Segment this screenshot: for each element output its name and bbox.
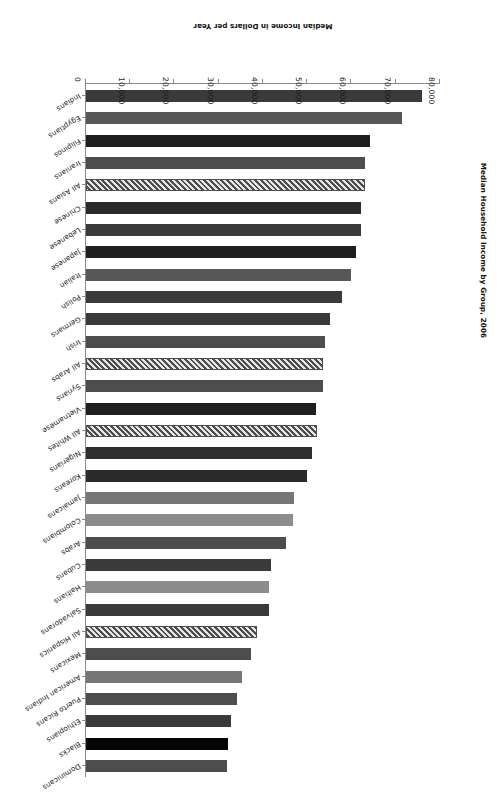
bar-row [86, 246, 440, 258]
bar-american-indians[interactable] [86, 671, 242, 683]
value-tick-label: 0 [73, 77, 82, 82]
bar-row [86, 715, 440, 727]
category-tick-mark [82, 609, 86, 610]
chart-title: Median Household Income by Group, 2006 [469, 0, 499, 797]
category-label-filipinos: Filipinos [52, 136, 82, 159]
category-tick-mark [82, 743, 86, 744]
bar-all-whites[interactable] [86, 425, 317, 437]
bar-row [86, 693, 440, 705]
bar-salvadorans[interactable] [86, 604, 269, 616]
bar-row [86, 648, 440, 660]
category-tick-mark [82, 184, 86, 185]
value-tick-label: 50,000 [294, 77, 303, 104]
value-tick-label: 30,000 [206, 77, 215, 104]
bar-italian[interactable] [86, 269, 351, 281]
bar-nigerians[interactable] [86, 447, 312, 459]
bar-row [86, 403, 440, 415]
category-tick-mark [82, 720, 86, 721]
category-label-arabs: Arabs [60, 538, 83, 557]
bar-row [86, 760, 440, 772]
value-tick-label: 40,000 [250, 77, 259, 104]
chart-figure: Median Household Income by Group, 2006 8… [0, 0, 499, 797]
value-tick-label: 80,000 [427, 77, 436, 104]
category-label-haitians: Haitians [52, 583, 82, 607]
bar-dominicans[interactable] [86, 760, 227, 772]
bar-row [86, 291, 440, 303]
bar-row [86, 470, 440, 482]
category-tick-mark [82, 251, 86, 252]
category-tick-mark [82, 95, 86, 96]
bar-row [86, 202, 440, 214]
category-tick-mark [82, 363, 86, 364]
bar-polish[interactable] [86, 291, 342, 303]
value-axis-title: Median Income in Dollars per Year [86, 22, 440, 31]
bar-haitians[interactable] [86, 581, 269, 593]
bar-chinese[interactable] [86, 202, 361, 214]
bar-row [86, 514, 440, 526]
value-tick-mark [262, 79, 263, 84]
category-tick-mark [82, 765, 86, 766]
chart-title-text: Median Household Income by Group, 2006 [480, 163, 489, 338]
category-label-polish: Polish [59, 293, 82, 312]
bar-ethiopians[interactable] [86, 715, 231, 727]
category-tick-mark [82, 430, 86, 431]
bar-all-arabs[interactable] [86, 358, 323, 370]
category-tick-mark [82, 676, 86, 677]
bar-colombians[interactable] [86, 514, 293, 526]
category-tick-mark [82, 475, 86, 476]
category-tick-mark [82, 229, 86, 230]
bar-egyptians[interactable] [86, 112, 402, 124]
bar-row [86, 738, 440, 750]
bar-all-asians[interactable] [86, 179, 365, 191]
category-tick-mark [82, 653, 86, 654]
bar-vietnamese[interactable] [86, 403, 316, 415]
bar-iranians[interactable] [86, 157, 365, 169]
bar-row [86, 604, 440, 616]
category-label-indians: Indians [55, 92, 82, 114]
bar-germans[interactable] [86, 313, 330, 325]
bar-puerto-ricans[interactable] [86, 693, 237, 705]
bar-blacks[interactable] [86, 738, 228, 750]
category-label-blacks: Blacks [57, 739, 82, 759]
bar-syrians[interactable] [86, 380, 323, 392]
category-tick-mark [82, 698, 86, 699]
category-tick-mark [82, 452, 86, 453]
bar-mexicans[interactable] [86, 648, 251, 660]
category-tick-mark [82, 408, 86, 409]
value-tick-mark [439, 79, 440, 84]
bar-lebanese[interactable] [86, 224, 361, 236]
bar-all-hispanics[interactable] [86, 626, 257, 638]
category-label-irish: Irish [64, 337, 82, 353]
category-tick-mark [82, 140, 86, 141]
bar-row [86, 179, 440, 191]
bar-row [86, 269, 440, 281]
value-tick-mark [218, 79, 219, 84]
value-tick-mark [174, 79, 175, 84]
category-label-syrians: Syrians [55, 382, 83, 404]
bar-row [86, 559, 440, 571]
category-label-dominicans: Dominicans [41, 762, 82, 792]
bar-irish[interactable] [86, 336, 325, 348]
bar-row [86, 135, 440, 147]
category-label-chinese: Chinese [53, 203, 83, 226]
category-tick-mark [82, 519, 86, 520]
bar-koreans[interactable] [86, 470, 307, 482]
value-tick-label: 10,000 [117, 77, 126, 104]
category-tick-mark [82, 586, 86, 587]
bar-row [86, 671, 440, 683]
bar-japanese[interactable] [86, 246, 356, 258]
bar-filipinos[interactable] [86, 135, 370, 147]
bar-row [86, 380, 440, 392]
bar-jamaicans[interactable] [86, 492, 294, 504]
value-tick-mark [129, 79, 130, 84]
category-tick-mark [82, 318, 86, 319]
bar-row [86, 157, 440, 169]
bar-arabs[interactable] [86, 537, 286, 549]
bar-cubans[interactable] [86, 559, 271, 571]
bar-row [86, 626, 440, 638]
bar-row [86, 224, 440, 236]
bar-row [86, 537, 440, 549]
category-tick-mark [82, 497, 86, 498]
category-tick-mark [82, 542, 86, 543]
bar-row [86, 358, 440, 370]
